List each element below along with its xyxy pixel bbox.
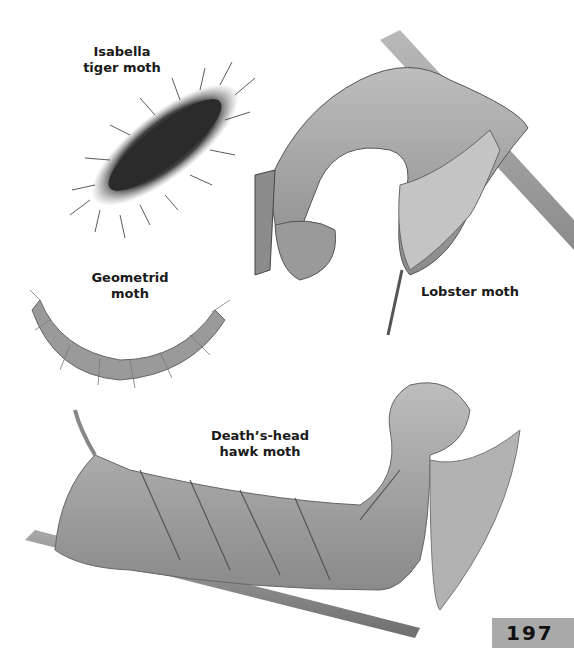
page-number-tab: 197 <box>492 618 574 648</box>
label-geometrid-moth: Geometrid moth <box>80 270 180 302</box>
label-lobster-moth: Lobster moth <box>415 284 525 300</box>
label-isabella-tiger-moth: Isabella tiger moth <box>72 44 172 76</box>
illustrations-canvas <box>0 0 574 660</box>
label-deaths-head-hawk-moth: Death’s-head hawk moth <box>205 428 315 460</box>
isabella-tiger-moth-caterpillar <box>70 62 256 238</box>
deaths-head-hawk-moth-caterpillar <box>25 383 520 638</box>
geometrid-moth-caterpillar <box>30 290 230 388</box>
